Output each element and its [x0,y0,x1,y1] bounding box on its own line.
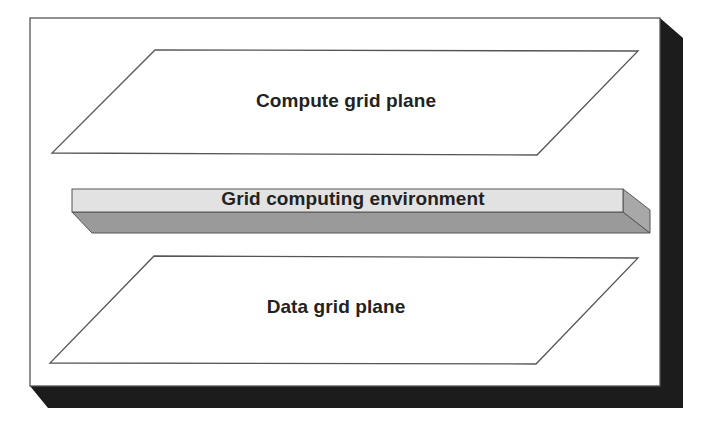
diagram-canvas: Compute grid plane Grid computing enviro… [0,0,703,427]
data-grid-plane-label: Data grid plane [267,296,406,318]
grid-computing-environment-label: Grid computing environment [221,188,484,210]
compute-grid-plane-label: Compute grid plane [256,90,436,112]
diagram-svg [0,0,703,427]
